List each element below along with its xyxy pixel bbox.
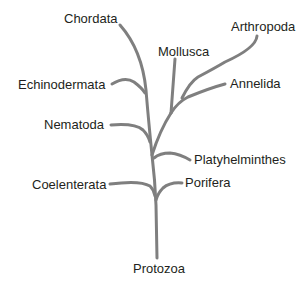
tree-branches — [0, 0, 306, 283]
coelenterata-branch — [110, 182, 155, 196]
label-echinodermata: Echinodermata — [18, 78, 105, 91]
protostome-branch — [152, 113, 171, 155]
label-annelida: Annelida — [230, 77, 281, 90]
porifera-branch — [156, 183, 182, 200]
label-mollusca: Mollusca — [158, 45, 209, 58]
trunk-branch — [120, 25, 157, 258]
nematoda-branch — [111, 125, 150, 142]
label-arthropoda: Arthropoda — [231, 20, 295, 33]
echinodermata-branch — [112, 79, 145, 93]
label-protozoa: Protozoa — [133, 262, 185, 275]
label-nematoda: Nematoda — [44, 118, 104, 131]
annelida-branch — [171, 84, 225, 113]
label-chordata: Chordata — [64, 12, 117, 25]
label-coelenterata: Coelenterata — [32, 178, 106, 191]
platyhelminthes-branch — [154, 153, 190, 160]
mollusca-branch — [171, 59, 175, 113]
label-platyhelminthes: Platyhelminthes — [194, 153, 286, 166]
label-porifera: Porifera — [185, 176, 231, 189]
